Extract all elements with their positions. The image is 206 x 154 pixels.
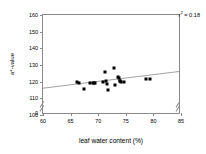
y-axis-tick (40, 32, 43, 33)
data-point (82, 87, 85, 90)
y-axis-tick (40, 82, 43, 83)
data-point (94, 82, 97, 85)
data-point (113, 84, 116, 87)
x-axis-tick (126, 113, 127, 116)
x-axis-tick-label: 80 (150, 118, 156, 124)
y-axis-tick-label: 130 (29, 62, 38, 68)
x-axis-tick (71, 113, 72, 116)
y-axis-tick-label: 120 (29, 79, 38, 85)
x-axis-tick-label: 75 (123, 118, 129, 124)
x-axis-tick (153, 113, 154, 116)
y-axis-tick-label: 110 (29, 95, 38, 101)
x-axis-tick-label: 60 (40, 118, 46, 124)
y-axis-tick (40, 15, 43, 16)
y-axis-tick-label: 150 (29, 29, 38, 35)
y-axis-zero-label: 0 (35, 110, 38, 116)
x-axis-tick-label: 85 (178, 118, 184, 124)
x-axis-title: leaf water content (%) (42, 137, 180, 144)
data-point (107, 89, 110, 92)
data-point (106, 83, 109, 86)
x-axis-tick (98, 113, 99, 116)
plot-area: 100110120130140150160 606570758085 0 (42, 14, 180, 114)
right-axis-break-mark (176, 103, 183, 115)
y-axis-tick (40, 65, 43, 66)
y-axis-title: a*-value (9, 29, 15, 99)
scatter-chart-figure: 100110120130140150160 606570758085 0 a*-… (0, 0, 206, 154)
trendline (43, 15, 179, 113)
y-axis-tick-label: 140 (29, 45, 38, 51)
data-point (149, 78, 152, 81)
r-value: = 0.18 (183, 12, 200, 18)
data-point (113, 67, 116, 70)
y-axis-tick (40, 48, 43, 49)
data-point (144, 78, 147, 81)
r-squared-annotation: r2 = 0.18 (179, 10, 200, 18)
x-axis-tick-label: 70 (95, 118, 101, 124)
y-axis-break-mark (40, 103, 47, 115)
plot-inner (43, 15, 179, 113)
y-axis-tick (40, 98, 43, 99)
x-axis-tick-label: 65 (68, 118, 74, 124)
y-axis-tick-label: 160 (29, 12, 38, 18)
data-point (122, 80, 125, 83)
data-point (104, 70, 107, 73)
data-point (77, 82, 80, 85)
